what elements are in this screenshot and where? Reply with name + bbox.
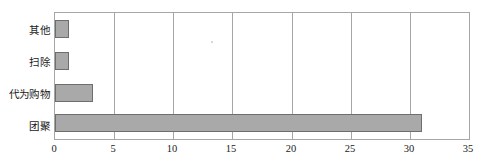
y-axis-label-0: 其他	[0, 22, 50, 37]
x-tick-4: 20	[286, 143, 297, 154]
bar-chart: 其他 扫除 代为购物 团聚 0 5 10 15 20 25 30 35	[0, 0, 481, 166]
x-axis-tick-labels: 0 5 10 15 20 25 30 35	[54, 143, 470, 163]
y-axis-label-1: 扫除	[0, 54, 50, 69]
scan-speck	[211, 41, 213, 43]
y-axis-label-2: 代为购物	[0, 86, 50, 101]
x-tick-2: 10	[167, 143, 178, 154]
x-tick-1: 5	[110, 143, 115, 154]
plot-area	[54, 12, 470, 140]
bar-qita	[55, 20, 69, 38]
x-tick-7: 35	[463, 143, 474, 154]
x-tick-3: 15	[226, 143, 237, 154]
y-axis-label-3: 团聚	[0, 118, 50, 133]
x-tick-6: 30	[404, 143, 415, 154]
bar-tuanju	[55, 114, 422, 132]
y-axis-category-labels: 其他 扫除 代为购物 团聚	[0, 12, 50, 140]
bar-daiweigouwu	[55, 84, 93, 102]
bar-saochu	[55, 52, 69, 70]
x-tick-5: 25	[345, 143, 356, 154]
x-tick-0: 0	[51, 143, 56, 154]
